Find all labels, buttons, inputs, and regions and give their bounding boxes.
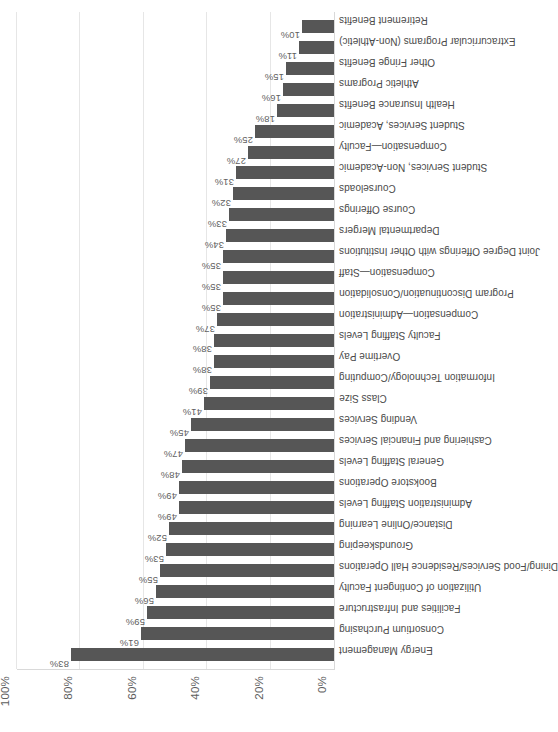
category-label: Course Offerings bbox=[339, 204, 415, 215]
bar[interactable] bbox=[179, 481, 334, 494]
category-slot: Distance/Online Learning bbox=[335, 519, 379, 540]
bar-value-label: 11% bbox=[279, 51, 298, 62]
bar-value-label: 83% bbox=[50, 659, 69, 670]
bar[interactable] bbox=[283, 83, 334, 96]
y-axis-tick-label: 60% bbox=[126, 676, 138, 700]
bar[interactable] bbox=[223, 271, 334, 284]
bar[interactable] bbox=[286, 62, 334, 75]
category-slot: Joint Degree Offerings with Other Instit… bbox=[335, 247, 379, 268]
category-label: Extracurricular Programs (Non-Athletic) bbox=[339, 36, 515, 47]
bar-value-label: 55% bbox=[138, 575, 157, 586]
category-label: Compensation—Faculty bbox=[339, 141, 447, 152]
category-slot: Other Fringe Benefits bbox=[335, 58, 379, 79]
bar-value-label: 33% bbox=[208, 219, 227, 230]
category-slot: Course Offerings bbox=[335, 205, 379, 226]
category-slot: Overtime Pay bbox=[335, 351, 379, 372]
bar-slot: 33% bbox=[17, 204, 334, 225]
bar[interactable] bbox=[166, 543, 334, 556]
bar[interactable] bbox=[229, 208, 334, 221]
bar-slot: 83% bbox=[17, 644, 334, 665]
category-label: Courseloads bbox=[339, 183, 396, 194]
category-label: Departmental Mergers bbox=[339, 225, 439, 236]
bar-value-label: 45% bbox=[170, 428, 189, 439]
bar-value-label: 49% bbox=[157, 491, 176, 502]
bar[interactable] bbox=[182, 460, 334, 473]
category-label: Dining/Food Services/Residence Hall Oper… bbox=[339, 561, 558, 572]
bars-group: 83%61%59%56%55%53%52%49%49%48%47%45%41%3… bbox=[17, 12, 334, 669]
category-slot: Program Discontinuation/Consolidation bbox=[335, 289, 379, 310]
bar-value-label: 56% bbox=[135, 596, 154, 607]
bar-value-label: 38% bbox=[192, 365, 211, 376]
bar-value-label: 34% bbox=[205, 240, 224, 251]
bar-value-label: 27% bbox=[227, 156, 246, 167]
category-label: Cashiering and Financial Services bbox=[339, 435, 492, 446]
bar-slot: 55% bbox=[17, 560, 334, 581]
category-slot: Vending Services bbox=[335, 414, 379, 435]
bar[interactable] bbox=[71, 648, 334, 661]
bar[interactable] bbox=[185, 439, 334, 452]
category-slot: Information Technology/Computing bbox=[335, 372, 379, 393]
bar-slot: 25% bbox=[17, 121, 334, 142]
bar[interactable] bbox=[156, 585, 334, 598]
bar[interactable] bbox=[214, 355, 334, 368]
category-slot: Class Size bbox=[335, 393, 379, 414]
category-label: Program Discontinuation/Consolidation bbox=[339, 288, 514, 299]
bar[interactable] bbox=[214, 334, 334, 347]
bar[interactable] bbox=[141, 627, 334, 640]
bar-slot: 16% bbox=[17, 79, 334, 100]
bar-slot: 37% bbox=[17, 309, 334, 330]
plot-area: 0%20%40%60%80%100% 83%61%59%56%55%53%52%… bbox=[17, 12, 335, 670]
category-label: Faculty Staffing Levels bbox=[339, 330, 441, 341]
bar[interactable] bbox=[233, 187, 334, 200]
bar[interactable] bbox=[210, 376, 334, 389]
category-label: Overtime Pay bbox=[339, 351, 400, 362]
bar-slot: 35% bbox=[17, 267, 334, 288]
bar[interactable] bbox=[217, 313, 334, 326]
category-slot: Student Services, Non-Academic bbox=[335, 163, 379, 184]
bar[interactable] bbox=[204, 397, 334, 410]
bar-value-label: 32% bbox=[211, 198, 230, 209]
category-label: Groundskeeping bbox=[339, 540, 413, 551]
bar-value-label: 53% bbox=[145, 554, 164, 565]
bar-value-label: 61% bbox=[119, 638, 138, 649]
category-slot: Dining/Food Services/Residence Hall Oper… bbox=[335, 561, 379, 582]
bar[interactable] bbox=[302, 20, 334, 33]
category-label: Administration Staffing Levels bbox=[339, 498, 472, 509]
bar-slot: 34% bbox=[17, 225, 334, 246]
bar-value-label: 16% bbox=[262, 93, 281, 104]
category-label: Compensation—Staff bbox=[339, 267, 435, 278]
bar[interactable] bbox=[236, 166, 334, 179]
category-slot: Departmental Mergers bbox=[335, 226, 379, 247]
category-slot: Compensation—Administration bbox=[335, 310, 379, 331]
bar-slot: 32% bbox=[17, 183, 334, 204]
category-label: Information Technology/Computing bbox=[339, 372, 495, 383]
bar-slot: 59% bbox=[17, 602, 334, 623]
category-label: Student Services, Non-Academic bbox=[339, 162, 487, 173]
bar-slot: 45% bbox=[17, 414, 334, 435]
bar-value-label: 49% bbox=[157, 512, 176, 523]
bar[interactable] bbox=[169, 522, 334, 535]
bar[interactable] bbox=[179, 501, 334, 514]
bar-value-label: 38% bbox=[192, 344, 211, 355]
bar[interactable] bbox=[277, 104, 334, 117]
bar[interactable] bbox=[191, 418, 334, 431]
bar[interactable] bbox=[299, 41, 334, 54]
bar[interactable] bbox=[255, 125, 334, 138]
bar[interactable] bbox=[160, 564, 334, 577]
bar-slot: 35% bbox=[17, 288, 334, 309]
bar[interactable] bbox=[226, 229, 334, 242]
category-label: Class Size bbox=[339, 393, 387, 404]
bar-value-label: 48% bbox=[161, 470, 180, 481]
category-slot: General Staffing Levels bbox=[335, 456, 379, 477]
bar-value-label: 31% bbox=[214, 177, 233, 188]
bar-slot: 61% bbox=[17, 623, 334, 644]
category-label: Energy Management bbox=[339, 645, 433, 656]
bar[interactable] bbox=[248, 146, 334, 159]
bar[interactable] bbox=[223, 292, 334, 305]
category-label: Compensation—Administration bbox=[339, 309, 478, 320]
bar-value-label: 52% bbox=[148, 533, 167, 544]
bar[interactable] bbox=[223, 250, 334, 263]
bar[interactable] bbox=[147, 606, 334, 619]
category-slot: Consortium Purchasing bbox=[335, 624, 379, 645]
